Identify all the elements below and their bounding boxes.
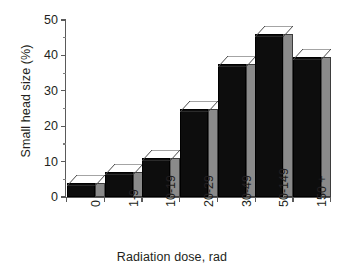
bar-top-face [142,147,180,158]
bar-top-face [180,98,218,109]
y-axis-minor-tick [63,108,66,109]
x-axis-tick-label: 0 [89,200,103,207]
x-axis-tick-label: 10-19 [164,175,178,207]
x-axis-tick [255,197,256,202]
x-axis-tick-label: 150 + [315,175,329,207]
chart-figure: Small head size (%) 0102030405001-910-19… [0,0,344,274]
bar-top-face [255,23,293,34]
y-axis-minor-tick [63,37,66,38]
y-axis-minor-tick [63,73,66,74]
y-axis-tick [61,161,66,162]
x-axis-tick [330,197,331,202]
bar-top-face [293,46,331,57]
y-axis-tick-label: 30 [44,84,58,98]
y-axis-tick [61,90,66,91]
bar [67,172,95,197]
bar-front-face [67,183,95,197]
x-axis-tick [179,197,180,202]
plot-area: 0102030405001-910-1920-2930-4950-149150 … [66,20,330,197]
x-axis-tick-label: 20-29 [202,175,216,207]
y-axis-tick-label: 40 [44,48,58,62]
y-axis-minor-tick [63,179,66,180]
x-axis-tick [104,197,105,202]
y-axis-tick-label: 50 [44,13,58,27]
y-axis-tick [61,19,66,20]
x-axis-tick-label: 30-49 [240,175,254,207]
y-axis-tick-label: 20 [44,119,58,133]
y-axis-tick [61,126,66,127]
x-axis-tick-label: 1-9 [127,189,141,207]
bar-top-face [218,53,256,64]
y-axis-title: Small head size (%) [19,1,33,201]
x-axis-tick-label: 50-149 [277,168,291,207]
bar-side-face [95,183,105,197]
y-axis-tick [61,55,66,56]
x-axis-tick [141,197,142,202]
x-axis-tick [66,197,67,202]
x-axis-title: Radiation dose, rad [0,250,344,264]
y-axis-tick-label: 0 [51,190,58,204]
bar-top-face [67,172,105,183]
bar-top-face [105,161,143,172]
x-axis-tick [292,197,293,202]
x-axis-tick [217,197,218,202]
y-axis-minor-tick [63,143,66,144]
y-axis-tick-label: 10 [44,155,58,169]
